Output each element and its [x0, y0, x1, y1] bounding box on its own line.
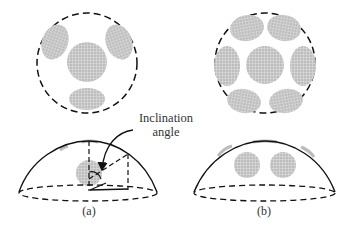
annotation-line-2: angle [152, 125, 180, 139]
dome-patch-right [270, 152, 296, 178]
dome-base-ellipse [19, 185, 157, 201]
patch-bottom [69, 88, 105, 110]
dome-b [194, 141, 335, 201]
caption-b: (b) [257, 204, 271, 218]
center-patch [67, 42, 107, 82]
annotation-line-1: Inclination [139, 111, 194, 125]
dome-a [19, 130, 157, 201]
caption-a: (a) [82, 204, 95, 218]
top-view-b [214, 12, 316, 116]
patch-right [290, 46, 316, 86]
patch-top-right [265, 12, 303, 44]
dome-patch-left [234, 152, 260, 178]
diagram-canvas: Inclination angle (a) (b) [0, 0, 352, 228]
dome-outline [194, 141, 335, 192]
center-patch [246, 46, 284, 84]
patch-top-left [228, 12, 266, 44]
patch-bottom-right [267, 86, 305, 116]
base-line [90, 189, 128, 190]
patch-left [214, 46, 240, 86]
dome-base-ellipse [194, 185, 335, 201]
top-view-a [37, 13, 138, 113]
patch-bottom-left [225, 86, 263, 116]
